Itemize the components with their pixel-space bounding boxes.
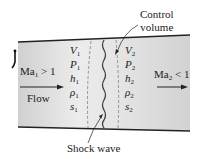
downstream-prop-rho: ρ2 [125,87,134,100]
upstream-prop-s: s1 [70,101,78,114]
upstream-prop-rho: ρ1 [70,87,79,100]
shock-wave-label: Shock wave [67,143,120,154]
upstream-mach-base: Ma [20,65,35,77]
upstream-prop-v: V1 [70,45,80,58]
downstream-prop-v: V2 [125,45,135,58]
control-volume-label: Control volume [140,8,174,34]
downstream-mach-base: Ma [154,68,169,80]
downstream-mach-rel: < 1 [172,68,189,80]
downstream-prop-h: h2 [125,73,134,86]
control-volume-label-line1: Control [140,8,174,21]
control-volume-label-line2: volume [140,21,174,34]
upstream-prop-h: h1 [70,73,79,86]
downstream-prop-p: P2 [125,59,135,72]
upstream-prop-p: P1 [70,59,80,72]
inlet-marker-icon [12,51,15,68]
downstream-prop-s: s2 [125,101,133,114]
downstream-mach-label: Ma2 < 1 [154,69,189,82]
upstream-mach-rel: > 1 [38,65,55,77]
upstream-mach-label: Ma1 > 1 [20,66,55,79]
flow-label: Flow [27,93,50,104]
